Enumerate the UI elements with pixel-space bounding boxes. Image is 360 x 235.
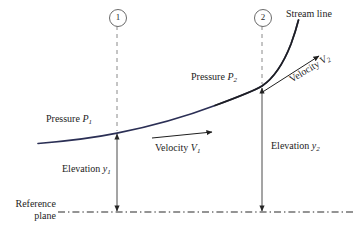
pressure-2-symbol-text: P bbox=[227, 71, 233, 82]
velocity-1-prefix-text: Velocity bbox=[155, 142, 191, 153]
bernoulli-streamline-figure: 1 2 Stream line Pressure P1 Pressure P2 … bbox=[0, 0, 360, 235]
section-marker-2-label: 2 bbox=[261, 12, 266, 22]
section-marker-2: 2 bbox=[254, 9, 272, 27]
elevation-1-label: Elevation y1 bbox=[62, 163, 111, 175]
pressure-2-prefix-text: Pressure bbox=[191, 71, 227, 82]
pressure-1-subscript-text: 1 bbox=[89, 118, 93, 126]
section-marker-1: 1 bbox=[109, 9, 127, 27]
elevation-2-label: Elevation y2 bbox=[271, 140, 320, 152]
stream-line-label-text: Stream line bbox=[286, 8, 332, 19]
pressure-1-label: Pressure P1 bbox=[46, 113, 92, 125]
elevation-2-prefix-text: Elevation bbox=[271, 140, 312, 151]
reference-plane-label-line-2: plane bbox=[4, 210, 56, 222]
velocity-1-subscript-text: 1 bbox=[197, 147, 201, 155]
velocity-1-label: Velocity V1 bbox=[155, 142, 200, 154]
velocity-1-arrow bbox=[152, 132, 212, 138]
elevation-2-subscript-text: 2 bbox=[316, 145, 320, 153]
reference-plane-label: Reference plane bbox=[4, 198, 56, 222]
pressure-1-prefix-text: Pressure bbox=[46, 113, 82, 124]
elevation-1-prefix-text: Elevation bbox=[62, 163, 103, 174]
section-marker-1-label: 1 bbox=[116, 12, 121, 22]
reference-plane-label-line-1: Reference bbox=[4, 198, 56, 210]
pressure-2-subscript-text: 2 bbox=[234, 76, 238, 84]
streamline-curve bbox=[38, 20, 299, 144]
pressure-2-label: Pressure P2 bbox=[191, 71, 237, 83]
elevation-1-subscript-text: 1 bbox=[107, 168, 111, 176]
pressure-1-symbol-text: P bbox=[82, 113, 88, 124]
stream-line-label: Stream line bbox=[286, 8, 332, 20]
streamline-curve-upper bbox=[215, 20, 299, 106]
